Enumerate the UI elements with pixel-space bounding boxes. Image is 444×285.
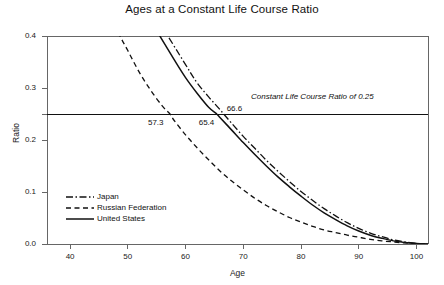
- legend-label: Japan: [97, 192, 119, 201]
- x-tick-label: 40: [55, 252, 85, 261]
- x-axis-label: Age: [47, 268, 428, 278]
- y-tick-label: 0.1: [6, 187, 36, 196]
- y-tick-label: 0.4: [6, 31, 36, 40]
- data-point-label: 65.4: [199, 118, 215, 127]
- data-point-label: 57.3: [148, 118, 164, 127]
- plot-area: [0, 0, 444, 285]
- reference-line-label: Constant Life Course Ratio of 0.25: [251, 92, 374, 101]
- y-axis-label: Ratio: [11, 103, 21, 163]
- x-tick-label: 100: [401, 252, 431, 261]
- legend-line-sample: [66, 214, 94, 223]
- legend-label: United States: [97, 214, 145, 223]
- x-tick-label: 50: [113, 252, 143, 261]
- x-tick-label: 70: [228, 252, 258, 261]
- legend-line-sample: [66, 203, 94, 212]
- chart-legend: JapanRussian FederationUnited States: [66, 191, 166, 224]
- y-tick-label: 0.3: [6, 83, 36, 92]
- x-tick-label: 90: [344, 252, 374, 261]
- legend-item-russian-federation[interactable]: Russian Federation: [66, 202, 166, 213]
- x-tick-label: 60: [171, 252, 201, 261]
- data-point-label: 66.6: [227, 104, 243, 113]
- legend-line-sample: [66, 192, 94, 201]
- chart-title: Ages at a Constant Life Course Ratio: [0, 3, 444, 15]
- y-tick-label: 0.2: [6, 135, 36, 144]
- y-tick-label: 0.0: [6, 239, 36, 248]
- legend-item-japan[interactable]: Japan: [66, 191, 166, 202]
- x-tick-label: 80: [286, 252, 316, 261]
- legend-label: Russian Federation: [97, 203, 166, 212]
- legend-item-united-states[interactable]: United States: [66, 213, 166, 224]
- chart-container: Ages at a Constant Life Course Ratio Rat…: [0, 0, 444, 285]
